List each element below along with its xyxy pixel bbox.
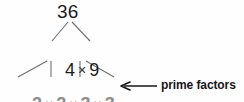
branch-36-to-9	[72, 22, 90, 41]
prime-factors-label: prime factors	[161, 79, 236, 91]
multiply-icon: ×	[42, 96, 56, 102]
callout-arrow-icon	[121, 82, 157, 90]
branch-36-to-4	[52, 22, 68, 41]
multiply-icon: ×	[75, 62, 89, 78]
prime-factor-row: 2×2×3×3	[12, 77, 115, 102]
prime-factor-node-2: 2	[56, 94, 66, 102]
factor-tree-diagram: 36 4×9 2×2×3×3 prime factors	[0, 0, 244, 102]
prime-factor-node-3: 3	[80, 94, 90, 102]
prime-factor-node-1: 2	[32, 94, 42, 102]
root-node-36: 36	[57, 2, 79, 21]
prime-factor-node-4: 3	[105, 94, 115, 102]
multiply-icon: ×	[66, 96, 80, 102]
branch-4-to-first-2	[18, 61, 47, 77]
multiply-icon: ×	[90, 96, 104, 102]
